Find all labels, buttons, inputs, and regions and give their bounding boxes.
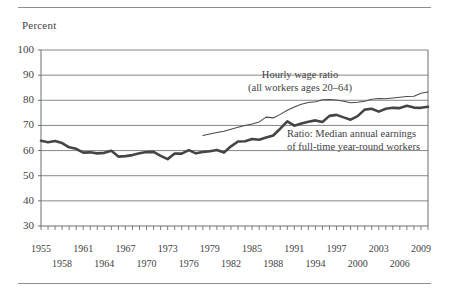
- x-axis-label-2006: 2006: [383, 258, 417, 269]
- y-axis-label-70: 70: [10, 118, 34, 130]
- x-axis-label-1955: 1955: [24, 243, 58, 254]
- x-axis-label-1958: 1958: [45, 258, 79, 269]
- annotation-median-earnings-ratio: Ratio: Median annual earnings of full-ti…: [287, 128, 420, 153]
- y-axis-label-30: 30: [10, 219, 34, 231]
- x-axis-label-1976: 1976: [172, 258, 206, 269]
- x-axis-ticks-group: [41, 226, 428, 230]
- x-axis-label-1973: 1973: [151, 243, 185, 254]
- x-axis-label-1991: 1991: [277, 243, 311, 254]
- chart-figure: Percent 30405060708090100 19551961196719…: [0, 0, 449, 291]
- x-axis-label-1964: 1964: [87, 258, 121, 269]
- x-axis-label-2000: 2000: [341, 258, 375, 269]
- annotation-hourly-line-2: (all workers ages 20–64): [248, 82, 352, 95]
- x-axis-label-2003: 2003: [362, 243, 396, 254]
- y-axis-label-100: 100: [10, 43, 34, 55]
- x-axis-label-1961: 1961: [66, 243, 100, 254]
- annotation-median-line-2: of full-time year-round workers: [287, 141, 420, 154]
- x-axis-label-1988: 1988: [256, 258, 290, 269]
- y-axis-label-60: 60: [10, 144, 34, 156]
- x-axis-label-1982: 1982: [214, 258, 248, 269]
- annotation-hourly-line-1: Hourly wage ratio: [248, 69, 352, 82]
- y-axis-label-40: 40: [10, 194, 34, 206]
- x-axis-label-1967: 1967: [108, 243, 142, 254]
- x-axis-label-1970: 1970: [130, 258, 164, 269]
- y-axis-label-50: 50: [10, 169, 34, 181]
- x-axis-label-1979: 1979: [193, 243, 227, 254]
- y-axis-label-90: 90: [10, 68, 34, 80]
- annotation-hourly-wage-ratio: Hourly wage ratio (all workers ages 20–6…: [248, 69, 352, 94]
- annotation-median-line-1: Ratio: Median annual earnings: [287, 128, 420, 141]
- x-axis-label-2009: 2009: [404, 243, 438, 254]
- x-axis-label-1994: 1994: [298, 258, 332, 269]
- x-axis-label-1997: 1997: [320, 243, 354, 254]
- x-axis-label-1985: 1985: [235, 243, 269, 254]
- y-axis-label-80: 80: [10, 93, 34, 105]
